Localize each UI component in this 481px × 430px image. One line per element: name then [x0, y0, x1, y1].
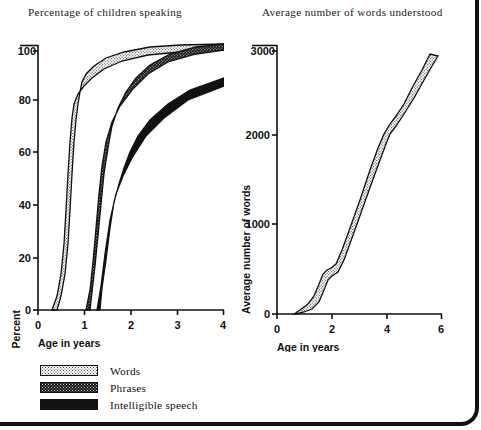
left-x-tick-1: 1 — [81, 319, 87, 331]
legend-label-intelligible-speech: Intelligible speech — [110, 399, 198, 411]
left-x-axis-title: Age in years — [38, 337, 101, 349]
right-x-axis-title: Age in years — [277, 341, 340, 352]
band-phrases — [86, 44, 224, 310]
left-y-tick-0: 0 — [25, 304, 31, 316]
figure-page: Percentage of children speaking Average … — [0, 0, 481, 430]
left-y-tick-40: 40 — [19, 199, 31, 211]
left-x-tick-4: 4 — [220, 319, 227, 331]
right-x-tick-6: 6 — [438, 323, 444, 335]
figure-legend: Words Phrases Intelligible speech — [40, 362, 270, 413]
chart-title-children-speaking: Percentage of children speaking — [28, 6, 182, 18]
left-x-tick-0: 0 — [35, 319, 41, 331]
left-y-tick-80: 80 — [19, 94, 31, 106]
chart-words-understood: 0 1000 2000 3000 0 2 4 6 Age in years Av… — [232, 22, 481, 352]
legend-item-words: Words — [40, 362, 270, 379]
band-group-left — [52, 44, 224, 310]
left-x-tick-2: 2 — [128, 319, 134, 331]
left-y-tick-20: 20 — [19, 252, 31, 264]
legend-item-intelligible-speech: Intelligible speech — [40, 396, 270, 413]
right-x-tick-0: 0 — [274, 323, 280, 335]
right-y-tick-0: 0 — [264, 308, 270, 320]
right-y-tick-2000: 2000 — [246, 129, 270, 141]
band-words-understood — [294, 54, 438, 314]
legend-label-phrases: Phrases — [110, 382, 146, 394]
chart-children-speaking: 0 20 40 60 80 100 0 1 2 3 4 Age in years… — [0, 22, 232, 352]
legend-swatch-intelligible-speech-icon — [40, 399, 98, 410]
right-y-tick-3000: 3000 — [251, 45, 275, 57]
right-x-tick-4: 4 — [384, 323, 391, 335]
right-x-tick-2: 2 — [329, 323, 335, 335]
left-y-axis-title: Percent — [10, 310, 22, 349]
legend-swatch-words-icon — [40, 365, 98, 376]
chart-title-words-understood: Average number of words understood — [262, 6, 443, 18]
legend-item-phrases: Phrases — [40, 379, 270, 396]
legend-swatch-phrases-icon — [40, 382, 98, 393]
band-group-right — [294, 54, 438, 314]
left-x-tick-3: 3 — [174, 319, 180, 331]
left-y-tick-60: 60 — [19, 146, 31, 158]
right-y-axis-title: Average number of words — [240, 185, 252, 314]
left-y-tick-100: 100 — [18, 45, 36, 57]
legend-label-words: Words — [110, 365, 140, 377]
